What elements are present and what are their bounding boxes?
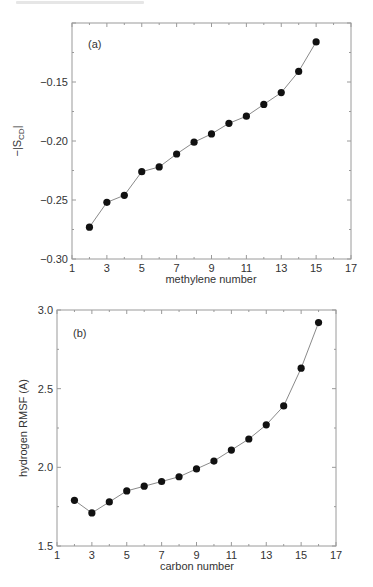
axis-ticks	[72, 23, 351, 259]
data-point	[208, 130, 215, 137]
plot-frame	[57, 310, 336, 546]
chart-panel-b: 13579111315171.52.02.53.0 (b) carbon num…	[17, 304, 342, 572]
x-tick-label: 5	[124, 549, 130, 561]
y-axis-label: hydrogen RMSF (A)	[17, 379, 29, 477]
data-point	[315, 319, 322, 326]
x-tick-label: 13	[260, 549, 272, 561]
figure: 1357911131517−0.30−0.25−0.20−0.15 (a) me…	[0, 0, 373, 587]
x-tick-label: 17	[345, 262, 357, 274]
x-tick-label: 3	[89, 549, 95, 561]
data-point	[280, 402, 287, 409]
x-tick-label: 15	[310, 262, 322, 274]
chart-panel-a: 1357911131517−0.30−0.25−0.20−0.15 (a) me…	[11, 23, 357, 285]
data-point	[225, 120, 232, 127]
y-tick-label: 1.5	[38, 540, 53, 552]
y-tick-label: 2.5	[38, 383, 53, 395]
y-tick-label: −0.25	[40, 194, 68, 206]
data-point	[103, 199, 110, 206]
data-point	[295, 68, 302, 75]
x-axis-label: carbon number	[160, 560, 234, 572]
x-tick-label: 5	[139, 262, 145, 274]
y-axis-label: −|SCD|	[11, 125, 26, 156]
data-point	[86, 224, 93, 231]
data-point	[123, 487, 130, 494]
data-point	[263, 421, 270, 428]
x-tick-label: 3	[104, 262, 110, 274]
data-point	[175, 473, 182, 480]
data-point	[210, 457, 217, 464]
x-tick-label: 15	[295, 549, 307, 561]
data-line	[74, 323, 318, 513]
data-point	[138, 168, 145, 175]
y-tick-label: −0.30	[40, 253, 68, 265]
y-tick-label: 2.0	[38, 461, 53, 473]
x-tick-label: 1	[54, 549, 60, 561]
data-point	[228, 446, 235, 453]
tick-labels: 13579111315171.52.02.53.0	[38, 304, 342, 561]
data-point	[260, 101, 267, 108]
y-tick-label: −0.15	[40, 76, 68, 88]
data-point	[141, 483, 148, 490]
data-point	[158, 478, 165, 485]
x-tick-label: 13	[275, 262, 287, 274]
data-point	[193, 465, 200, 472]
x-tick-label: 17	[330, 549, 342, 561]
plot-frame	[72, 23, 351, 259]
data-point	[173, 150, 180, 157]
data-point	[71, 497, 78, 504]
data-point	[190, 139, 197, 146]
panel-label: (b)	[73, 327, 86, 339]
data-point	[121, 192, 128, 199]
data-point	[156, 163, 163, 170]
axis-ticks	[57, 310, 336, 546]
data-point	[106, 498, 113, 505]
data-line	[89, 42, 316, 227]
y-tick-label: −0.20	[40, 135, 68, 147]
panel-label: (a)	[88, 38, 101, 50]
data-point	[245, 435, 252, 442]
x-tick-label: 1	[69, 262, 75, 274]
data-point	[278, 89, 285, 96]
x-axis-label: methylene number	[165, 273, 256, 285]
data-markers	[86, 38, 320, 230]
data-point	[88, 509, 95, 516]
data-markers	[71, 319, 322, 517]
tick-labels: 1357911131517−0.30−0.25−0.20−0.15	[40, 76, 357, 274]
data-point	[313, 38, 320, 45]
data-point	[298, 365, 305, 372]
y-tick-label: 3.0	[38, 304, 53, 316]
data-point	[243, 113, 250, 120]
